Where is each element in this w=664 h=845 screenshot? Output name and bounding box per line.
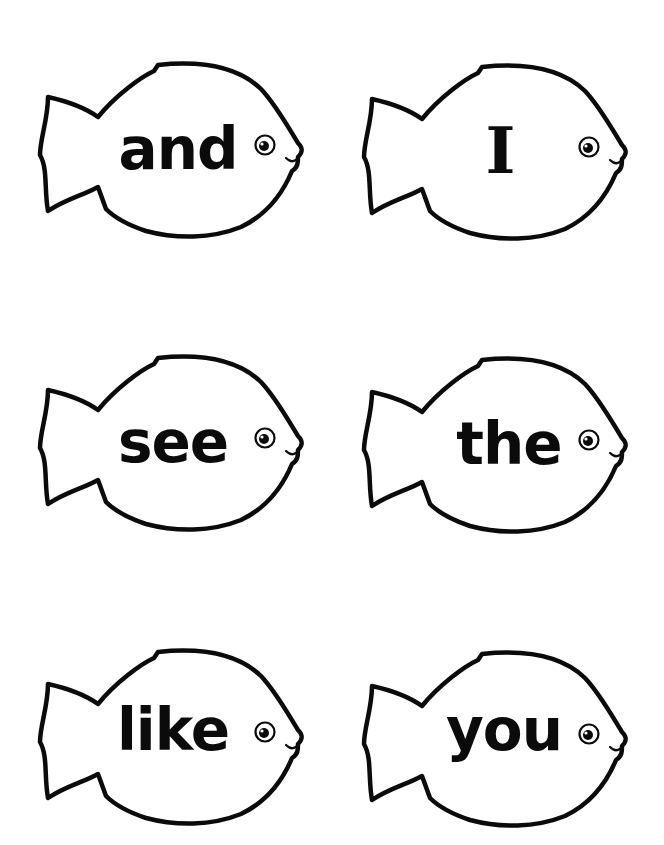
- sight-word: and: [98, 59, 258, 239]
- fish-card-like: like: [36, 646, 306, 826]
- fish-card-you: you: [360, 648, 630, 828]
- fish-card-see: see: [36, 352, 306, 532]
- sight-word: you: [434, 640, 574, 820]
- worksheet-page: and I see the like you: [0, 0, 664, 845]
- sight-word: see: [108, 352, 238, 532]
- fish-card-the: the: [360, 354, 630, 534]
- sight-word: like: [108, 640, 238, 820]
- fish-card-and: and: [36, 59, 306, 239]
- sight-word: the: [444, 354, 574, 534]
- fish-card-i: I: [360, 61, 630, 241]
- sight-word: I: [460, 61, 540, 241]
